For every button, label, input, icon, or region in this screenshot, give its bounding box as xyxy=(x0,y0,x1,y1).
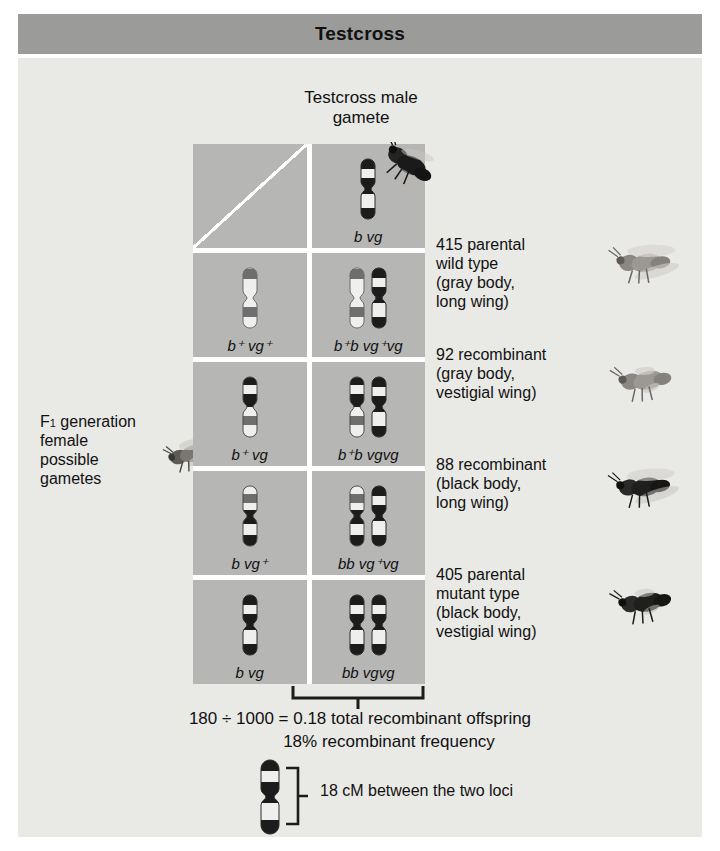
female-gamete-cell-2: b⁺ vg xyxy=(193,362,307,466)
female-gamete-cell-4: b vg xyxy=(193,580,307,684)
figure-body-panel: Testcross male gamete F1 generation fema… xyxy=(18,58,702,837)
chromosome-b-plus-vg-plus xyxy=(242,267,258,329)
calculation-line-2: 18% recombinant frequency xyxy=(18,731,702,754)
top-caption-line-2: gamete xyxy=(266,108,456,128)
offspring-fly-image-1 xyxy=(606,236,686,302)
female-gamete-genotype-3: b vg⁺ xyxy=(232,556,268,571)
map-distance-bracket-icon xyxy=(256,758,316,836)
offspring-cell-1: b⁺b vg⁺vg xyxy=(312,253,426,357)
row-annotation-1: 415 parental wild type (gray body, long … xyxy=(436,236,616,312)
annotation-line: 415 parental xyxy=(436,236,616,255)
left-label-line-2: female xyxy=(40,432,170,451)
annotation-line: mutant type xyxy=(436,585,616,604)
chromosome-b-vg xyxy=(371,485,387,547)
row-annotation-2: 92 recombinant (gray body, vestigial win… xyxy=(436,346,616,403)
annotation-line: vestigial wing) xyxy=(436,623,616,642)
row-annotation-3: 88 recombinant (black body, long wing) xyxy=(436,456,616,513)
annotation-line: long wing) xyxy=(436,494,616,513)
top-caption-line-1: Testcross male xyxy=(266,88,456,108)
chromosome-group xyxy=(242,471,258,555)
chromosome-b-plus-vg xyxy=(349,376,365,438)
chromosome-group xyxy=(349,580,387,664)
grid-corner-cell xyxy=(193,144,307,248)
left-label-line-3: possible xyxy=(40,451,170,470)
f1-female-gametes-label: F1 generation female possible gametes xyxy=(40,413,170,489)
figure-header-bar: Testcross xyxy=(18,14,702,54)
chromosome-group xyxy=(349,362,387,446)
chromosome-group xyxy=(242,253,258,337)
chromosome-group xyxy=(349,471,387,555)
chromosome-b-plus-vg xyxy=(242,376,258,438)
annotation-line: (black body, xyxy=(436,475,616,494)
chromosome-group xyxy=(242,580,258,664)
page-title: Testcross xyxy=(315,23,405,45)
diagonal-divider xyxy=(193,144,307,248)
chromosome-b-vg xyxy=(371,267,387,329)
annotation-line: (gray body, xyxy=(436,365,616,384)
annotation-line: vestigial wing) xyxy=(436,384,616,403)
offspring-genotype-2: b⁺b vgvg xyxy=(338,447,399,462)
female-gamete-cell-1: b⁺ vg⁺ xyxy=(193,253,307,357)
female-gamete-genotype-4: b vg xyxy=(236,665,264,680)
offspring-cell-4: bb vgvg xyxy=(312,580,426,684)
annotation-line: wild type xyxy=(436,255,616,274)
offspring-fly-image-3 xyxy=(606,460,686,526)
female-gamete-cell-3: b vg⁺ xyxy=(193,471,307,575)
recombinant-bracket xyxy=(290,684,426,710)
row-annotation-4: 405 parental mutant type (black body, ve… xyxy=(436,566,616,642)
left-label-line-4: gametes xyxy=(40,470,170,489)
testcross-male-gamete-label: Testcross male gamete xyxy=(266,88,456,128)
calculation-line-1: 180 ÷ 1000 = 0.18 total recombinant offs… xyxy=(18,708,702,731)
annotation-line: long wing) xyxy=(436,293,616,312)
annotation-line: (gray body, xyxy=(436,274,616,293)
chromosome-b-vg xyxy=(349,594,365,656)
punnett-square-grid: b vg b⁺ vg⁺ xyxy=(193,144,425,684)
annotation-line: 88 recombinant xyxy=(436,456,616,475)
offspring-cell-3: bb vg⁺vg xyxy=(312,471,426,575)
offspring-genotype-3: bb vg⁺vg xyxy=(338,556,399,571)
chromosome-group xyxy=(349,253,387,337)
offspring-fly-image-4 xyxy=(608,576,684,638)
offspring-genotype-4: bb vgvg xyxy=(342,665,395,680)
offspring-fly-image-2 xyxy=(608,354,684,416)
left-label-line-1: F1 generation xyxy=(40,413,170,432)
offspring-cell-2: b⁺b vgvg xyxy=(312,362,426,466)
male-gamete-genotype: b vg xyxy=(354,229,382,244)
chromosome-group xyxy=(242,362,258,446)
chromosome-b-vg xyxy=(371,594,387,656)
offspring-genotype-1: b⁺b vg⁺vg xyxy=(334,338,403,353)
map-distance-block: 18 cM between the two loci xyxy=(256,758,516,836)
map-distance-label: 18 cM between the two loci xyxy=(320,782,513,800)
chromosome-b-vg-plus xyxy=(349,485,365,547)
female-gamete-genotype-2: b⁺ vg xyxy=(232,447,268,462)
testcross-male-fly-image xyxy=(370,142,442,208)
annotation-line: 92 recombinant xyxy=(436,346,616,365)
chromosome-b-vg xyxy=(242,594,258,656)
chromosome-b-vg xyxy=(371,376,387,438)
chromosome-b-vg-plus xyxy=(242,485,258,547)
chromosome-b-plus-vg-plus xyxy=(349,267,365,329)
testcross-figure: Testcross Testcross male gamete F1 gener… xyxy=(0,0,720,851)
recombinant-calculation: 180 ÷ 1000 = 0.18 total recombinant offs… xyxy=(18,708,702,754)
annotation-line: (black body, xyxy=(436,604,616,623)
annotation-line: 405 parental xyxy=(436,566,616,585)
female-gamete-genotype-1: b⁺ vg⁺ xyxy=(228,338,272,353)
